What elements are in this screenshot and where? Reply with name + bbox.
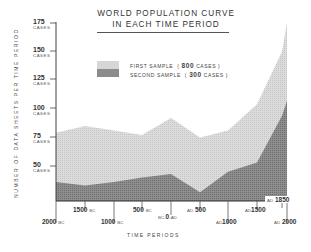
x-tick-ad1850: AD 1850: [265, 196, 291, 203]
x-tick-ad1000: AD1000: [216, 218, 237, 225]
legend-label-second: SECOND SAMPLE ( 300 CASES ): [130, 71, 228, 78]
legend-swatch-first: [97, 61, 119, 69]
x-tick-2000bc: 2000 BC: [42, 218, 64, 225]
x-tick-ad2000: AD 2000: [274, 218, 296, 225]
x-tick-500bc: 500 BC: [133, 206, 152, 213]
chart-plot: [0, 0, 311, 252]
area-series-group: [56, 23, 287, 201]
x-tick-bc-0-ad: BC-0-AD: [158, 213, 177, 220]
x-tick-ad500: AD 500: [187, 206, 206, 213]
y-axis-ticks: [50, 23, 56, 166]
x-tick-ad1500: AD1500: [245, 206, 266, 213]
x-tick-1000bc: 1000 BC: [101, 218, 123, 225]
legend-label-first: FIRST SAMPLE ( 800 CASES ): [130, 62, 220, 69]
legend-swatch-second: [97, 69, 119, 77]
x-tick-1500bc: 1500 BC: [73, 206, 95, 213]
x-axis-label: TIME PERIODS: [127, 232, 180, 238]
